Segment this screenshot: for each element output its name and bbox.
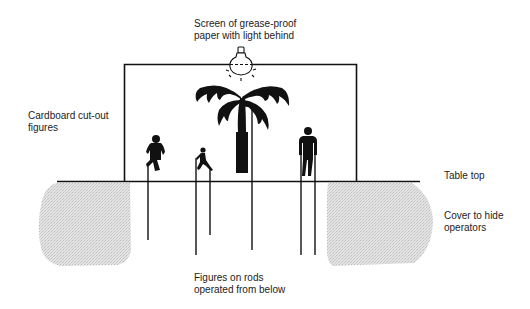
screen-label-line1: Screen of grease-proof (194, 18, 296, 30)
cover-label-line2: operators (444, 222, 503, 234)
cutouts-label-line1: Cardboard cut-out (28, 110, 109, 122)
shadow-theatre-diagram (0, 0, 530, 309)
screen-label-line2: paper with light behind (194, 30, 296, 42)
light-bulb-icon (226, 47, 256, 81)
table-top-label-line1: Table top (444, 170, 485, 182)
rods-label: Figures on rods operated from below (194, 272, 285, 296)
small-running-figure (196, 147, 213, 171)
screen-label: Screen of grease-proof paper with light … (194, 18, 296, 42)
rods-label-line2: operated from below (194, 284, 285, 296)
palm-tree (196, 85, 290, 173)
cutouts-label-line2: figures (28, 122, 109, 134)
table-top-label: Table top (444, 170, 485, 182)
cutouts-label: Cardboard cut-out figures (28, 110, 109, 134)
running-figure (146, 135, 165, 171)
rods-label-line1: Figures on rods (194, 272, 285, 284)
cover-label: Cover to hide operators (444, 210, 503, 234)
right-cover (327, 183, 433, 266)
left-cover (39, 183, 131, 266)
cover-label-line1: Cover to hide (444, 210, 503, 222)
